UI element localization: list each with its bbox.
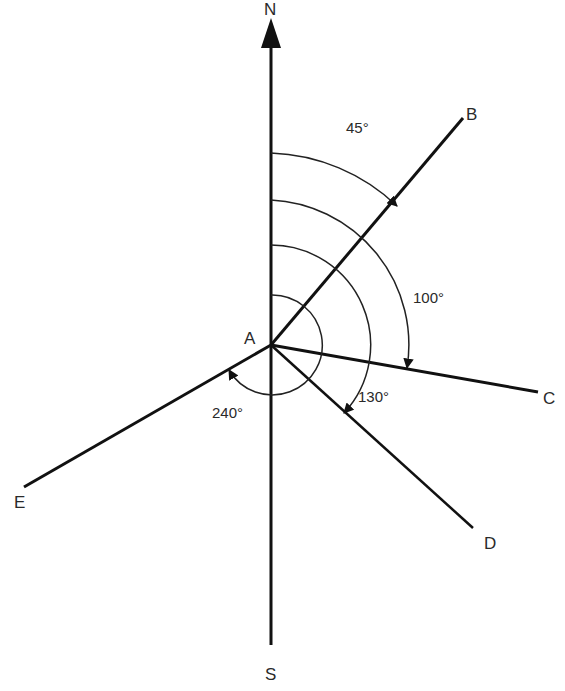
angle-label-240: 240° bbox=[212, 404, 243, 421]
arc-100 bbox=[271, 200, 409, 368]
point-label-E: E bbox=[14, 493, 25, 512]
point-label-D: D bbox=[484, 534, 496, 553]
arc-45 bbox=[271, 153, 397, 206]
line-AB bbox=[271, 118, 463, 345]
angle-label-45: 45° bbox=[346, 119, 369, 136]
north-arrow-icon bbox=[261, 18, 281, 48]
point-label-B: B bbox=[466, 105, 477, 124]
point-label-C: C bbox=[543, 389, 555, 408]
angle-label-130: 130° bbox=[358, 388, 389, 405]
north-label: N bbox=[264, 0, 276, 19]
south-label: S bbox=[265, 665, 276, 684]
line-AC bbox=[271, 345, 538, 392]
angle-label-100: 100° bbox=[413, 289, 444, 306]
point-label-A: A bbox=[244, 329, 256, 348]
line-AD bbox=[271, 345, 473, 528]
bearing-diagram: N S A B C D E 45° 100° 130° 240° bbox=[0, 0, 565, 691]
